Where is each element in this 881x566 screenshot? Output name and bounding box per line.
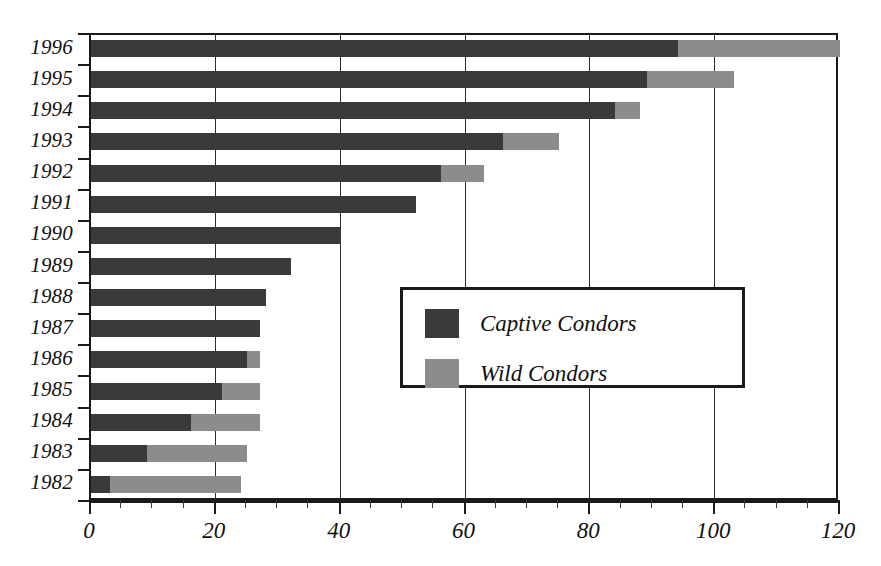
y-axis-tick [78,500,89,502]
bar-row [91,40,840,57]
x-axis-label-0: 0 [83,518,95,544]
y-axis-tick [78,95,89,97]
bar-row [91,258,840,275]
bar-segment-captive [91,40,678,57]
y-axis-tick [78,33,89,35]
bar-segment-captive [91,414,191,431]
y-axis-label-1992: 1992 [0,159,73,184]
bar-segment-captive [91,102,615,119]
y-axis-label-1986: 1986 [0,346,73,371]
bar-row [91,476,840,493]
y-axis-tick [78,282,89,284]
legend-label: Captive Condors [480,311,637,337]
bar-segment-captive [91,383,222,400]
bar-segment-captive [91,289,266,306]
condor-population-chart: 1996199519941993199219911990198919881987… [0,0,881,566]
x-axis-tick-minor-75 [557,500,558,508]
x-axis-tick-minor-45 [370,500,371,508]
y-axis-tick [78,313,89,315]
bar-row [91,102,840,119]
y-axis-label-1983: 1983 [0,439,73,464]
x-axis-tick-minor-10 [151,500,152,508]
x-axis-tick-minor-65 [495,500,496,508]
bar-segment-captive [91,445,147,462]
x-axis-tick-major-120 [838,500,840,514]
bar-row [91,196,840,213]
bar-segment-captive [91,196,416,213]
x-axis-label-100: 100 [696,518,731,544]
bar-row [91,71,840,88]
y-axis-label-1995: 1995 [0,66,73,91]
y-axis-label-1982: 1982 [0,470,73,495]
legend-swatch-captive [425,309,459,338]
x-axis-tick-minor-115 [807,500,808,508]
x-axis-tick-minor-5 [120,500,121,508]
x-axis-label-20: 20 [202,518,225,544]
x-axis-label-120: 120 [821,518,856,544]
y-axis-tick [78,158,89,160]
bar-segment-captive [91,258,291,275]
y-axis-label-1994: 1994 [0,97,73,122]
legend-label: Wild Condors [480,361,607,387]
x-axis-tick-major-40 [339,500,341,514]
y-axis-tick [78,375,89,377]
y-axis-tick [78,344,89,346]
y-axis-tick [78,126,89,128]
bar-segment-captive [91,227,341,244]
bar-segment-wild [678,40,840,57]
x-axis-tick-minor-85 [620,500,621,508]
x-axis-tick-minor-95 [682,500,683,508]
y-axis-label-1988: 1988 [0,284,73,309]
y-axis-label-1991: 1991 [0,190,73,215]
x-axis-label-60: 60 [452,518,475,544]
x-axis-tick-minor-15 [183,500,184,508]
x-axis-tick-major-80 [588,500,590,514]
bar-segment-wild [441,165,485,182]
bar-segment-captive [91,351,247,368]
y-axis-label-1989: 1989 [0,253,73,278]
legend: Captive CondorsWild Condors [400,287,745,388]
y-axis-label-1990: 1990 [0,221,73,246]
bar-segment-wild [222,383,259,400]
bar-segment-wild [247,351,259,368]
plot-area [89,33,838,500]
x-axis-tick-minor-30 [276,500,277,508]
x-axis-label-40: 40 [327,518,350,544]
bar-segment-wild [503,133,559,150]
x-axis-tick-minor-110 [776,500,777,508]
y-axis-tick [78,220,89,222]
x-axis-tick-minor-25 [245,500,246,508]
y-axis-tick [78,64,89,66]
bar-segment-wild [110,476,241,493]
legend-entry-wild: Wild Condors [425,359,607,388]
bar-row [91,414,840,431]
y-axis-label-1987: 1987 [0,315,73,340]
y-axis-tick [78,438,89,440]
y-axis-tick [78,407,89,409]
bar-segment-wild [647,71,734,88]
y-axis-label-1984: 1984 [0,408,73,433]
x-axis-tick-minor-55 [432,500,433,508]
x-axis-tick-minor-90 [651,500,652,508]
x-axis-tick-major-100 [713,500,715,514]
y-axis-label-1996: 1996 [0,35,73,60]
bar-segment-captive [91,165,441,182]
bar-segment-wild [147,445,247,462]
x-axis-tick-major-20 [214,500,216,514]
y-axis-tick [78,251,89,253]
x-axis-tick-major-0 [89,500,91,514]
bar-segment-captive [91,320,260,337]
x-axis-tick-minor-50 [401,500,402,508]
bar-row [91,165,840,182]
y-axis-label-1985: 1985 [0,377,73,402]
x-axis-tick-minor-35 [307,500,308,508]
x-axis-label-80: 80 [577,518,600,544]
bar-row [91,133,840,150]
y-axis-tick [78,189,89,191]
bar-segment-captive [91,133,503,150]
y-axis-tick [78,469,89,471]
bar-segment-wild [615,102,640,119]
legend-swatch-wild [425,359,459,388]
bar-segment-wild [191,414,260,431]
x-axis-tick-minor-105 [744,500,745,508]
